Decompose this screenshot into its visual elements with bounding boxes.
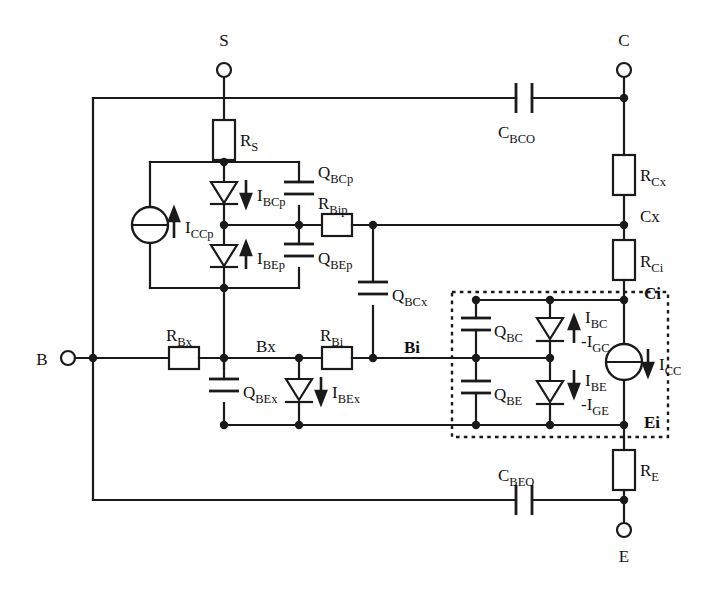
arrow-IBCp-down: [241, 180, 251, 207]
terminal-B-circle: [61, 351, 75, 365]
resistor-label-RBi: RBi: [320, 326, 344, 349]
resistor-RBi-body: [322, 347, 352, 369]
current-label-IBE: IBE: [585, 371, 607, 394]
capacitor-QBCx-group: [358, 225, 388, 358]
arrow-IBEx-down: [316, 377, 326, 404]
resistor-RE-body: [613, 450, 635, 490]
terminal-S-circle: [217, 63, 231, 77]
node-label-Bx: Bx: [256, 337, 276, 356]
current-label-minus-IGC: -IGC: [581, 332, 610, 355]
capacitor-label-QBCx: QBCx: [392, 286, 428, 309]
resistor-label-RS: RS: [240, 131, 258, 154]
capacitor-label-QBEx: QBEx: [243, 383, 278, 406]
capacitor-label-QBEp: QBEp: [318, 249, 353, 272]
resistor-label-RE: RE: [640, 461, 659, 484]
arrow-IBE-down: [569, 370, 579, 397]
resistor-RCi-body: [613, 240, 635, 280]
capacitor-QBEp: [284, 244, 314, 256]
capacitor-CBEO: [516, 485, 532, 515]
current-label-IBC: IBC: [585, 308, 607, 331]
capacitor-label-QBE: QBE: [494, 385, 523, 408]
terminal-label-E: E: [619, 547, 629, 566]
substrate-branch: [213, 63, 235, 368]
capacitor-QBCp: [284, 182, 314, 194]
current-label-IBCp: IBCp: [257, 186, 286, 209]
current-source-ICCp: [132, 207, 168, 243]
capacitor-label-CBEO: CBEO: [498, 466, 534, 489]
capacitor-label-QBC: QBC: [494, 322, 523, 345]
node-label-Ei: Ei: [644, 413, 660, 432]
junction-dots: [89, 94, 628, 504]
terminal-label-C: C: [618, 31, 629, 50]
diode-IBEx-group: [286, 358, 312, 425]
arrow-ICC-down: [643, 349, 653, 376]
resistor-RCx-body: [613, 155, 635, 195]
current-label-IBEp: IBEp: [257, 249, 285, 272]
capacitor-label-CBCO: CBCO: [498, 123, 535, 146]
resistor-RS-body: [213, 120, 235, 160]
source-label-ICCp: ICCp: [185, 218, 214, 241]
terminal-C-circle: [617, 63, 631, 77]
schematic-canvas: S C B E Bx Bi Cx Ci Ei RS RCx RCi RE RBx…: [0, 0, 728, 593]
current-label-IBEx: IBEx: [332, 383, 361, 406]
resistor-RBx-body: [169, 347, 199, 369]
capacitor-label-QBCp: QBCp: [318, 163, 353, 186]
circuit-diagram-svg: S C B E Bx Bi Cx Ci Ei RS RCx RCi RE RBx…: [0, 0, 728, 593]
resistor-label-RBx: RBx: [166, 326, 193, 349]
node-label-Cx: Cx: [640, 207, 660, 226]
arrow-IBC-up: [569, 316, 579, 343]
current-label-minus-IGE: -IGE: [581, 395, 609, 418]
node-label-Ci: Ci: [644, 284, 661, 303]
capacitor-CBCO: [516, 83, 532, 113]
node-label-Bi: Bi: [404, 338, 420, 357]
current-source-ICC: [606, 344, 642, 380]
diode-IBCp: [211, 182, 237, 204]
resistor-label-RCx: RCx: [640, 166, 667, 189]
resistor-RBip-group: [322, 214, 624, 236]
diode-IBEp: [211, 245, 237, 267]
terminal-label-S: S: [219, 31, 228, 50]
arrow-ICCp-up: [169, 208, 179, 238]
resistor-label-RCi: RCi: [640, 252, 664, 275]
source-label-ICC: ICC: [659, 355, 681, 378]
arrow-IBEp-up: [241, 242, 251, 269]
terminal-label-B: B: [36, 350, 47, 369]
resistor-RBip-body: [322, 214, 352, 236]
terminal-E-circle: [617, 523, 631, 537]
